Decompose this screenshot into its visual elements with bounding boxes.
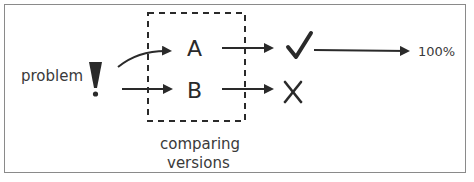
- problem-label: problem: [21, 67, 83, 85]
- group-label-line1: comparing: [160, 135, 240, 153]
- group-label-line2: versions: [167, 154, 230, 172]
- result-label: 100%: [418, 44, 455, 59]
- exclamation-icon: [89, 62, 102, 97]
- x-icon: [285, 82, 301, 102]
- arrow-problem-to-a: [118, 51, 170, 67]
- arrow-check-to-result: [314, 50, 408, 51]
- version-b-label: B: [187, 78, 202, 103]
- check-icon: [288, 33, 311, 57]
- comparing-versions-box: [148, 13, 245, 121]
- diagram-canvas: [0, 0, 474, 182]
- version-a-label: A: [187, 36, 202, 61]
